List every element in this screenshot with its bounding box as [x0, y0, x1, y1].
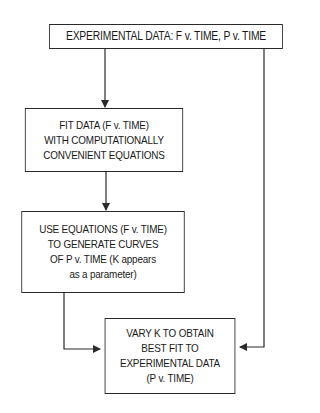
node-use-equations: USE EQUATIONS (F v. TIME) TO GENERATE CU…	[21, 211, 184, 293]
node-vary-k: VARY K TO OBTAIN BEST FIT TO EXPERIMENTA…	[105, 318, 236, 394]
arrow-use-to-vary	[64, 293, 100, 349]
node-text-line: (P v. TIME)	[146, 371, 193, 386]
node-text-line: TO GENERATE CURVES	[48, 237, 159, 252]
node-text-line: OF P v. TIME (K appears	[50, 252, 156, 267]
arrow-experimental-to-vary	[240, 49, 264, 347]
node-text-line: CONVENIENT EQUATIONS	[43, 148, 164, 163]
node-text-line: VARY K TO OBTAIN	[126, 326, 213, 341]
node-text-line: WITH COMPUTATIONALLY	[44, 133, 164, 148]
node-text-line: USE EQUATIONS (F v. TIME)	[39, 222, 167, 237]
node-text-line: EXPERIMENTAL DATA	[120, 356, 220, 371]
node-fit-data: FIT DATA (F v. TIME) WITH COMPUTATIONALL…	[25, 108, 183, 172]
node-text-line: BEST FIT TO	[141, 341, 198, 356]
node-text-line: as a parameter)	[69, 267, 136, 282]
node-text-line: EXPERIMENTAL DATA: F v. TIME, P v. TIME	[66, 29, 266, 44]
node-text-line: FIT DATA (F v. TIME)	[59, 118, 149, 133]
node-experimental-data: EXPERIMENTAL DATA: F v. TIME, P v. TIME	[49, 24, 283, 49]
